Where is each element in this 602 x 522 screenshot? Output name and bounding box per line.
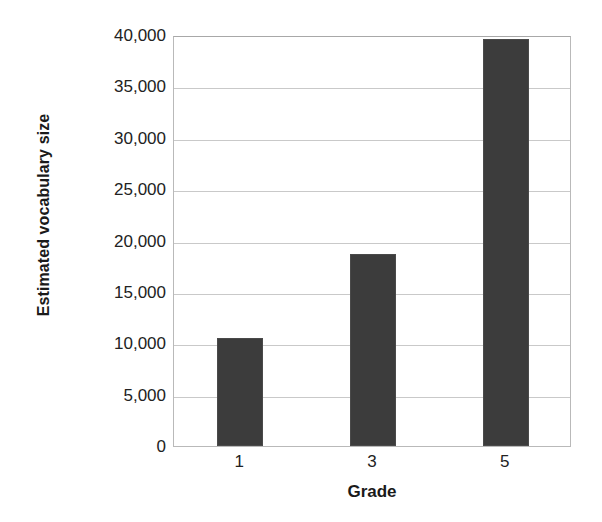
y-axis-tick-label: 0 <box>68 437 166 457</box>
y-axis-tick-label: 20,000 <box>68 232 166 252</box>
plot-area <box>173 36 571 447</box>
y-axis-tick-label: 15,000 <box>68 283 166 303</box>
bar-series <box>174 37 570 446</box>
bar <box>483 39 529 446</box>
bar <box>350 254 396 446</box>
x-axis-tick-label: 1 <box>199 452 279 472</box>
y-axis-tick-label: 30,000 <box>68 129 166 149</box>
bar <box>217 338 263 446</box>
y-axis-tick-label: 40,000 <box>68 26 166 46</box>
x-axis-tick-label: 5 <box>465 452 545 472</box>
x-axis-title: Grade <box>173 482 571 502</box>
y-axis-tick-label-group: 05,00010,00015,00020,00025,00030,00035,0… <box>68 36 166 447</box>
y-axis-title: Estimated vocabulary size <box>22 0 66 430</box>
chart-page: Estimated vocabulary size 05,00010,00015… <box>0 0 602 522</box>
y-axis-tick-label: 10,000 <box>68 334 166 354</box>
x-axis-tick-label: 3 <box>332 452 412 472</box>
y-axis-tick-label: 5,000 <box>68 386 166 406</box>
y-axis-tick-label: 35,000 <box>68 77 166 97</box>
y-axis-tick-label: 25,000 <box>68 180 166 200</box>
x-axis-tick-label-group: 135 <box>173 452 571 480</box>
